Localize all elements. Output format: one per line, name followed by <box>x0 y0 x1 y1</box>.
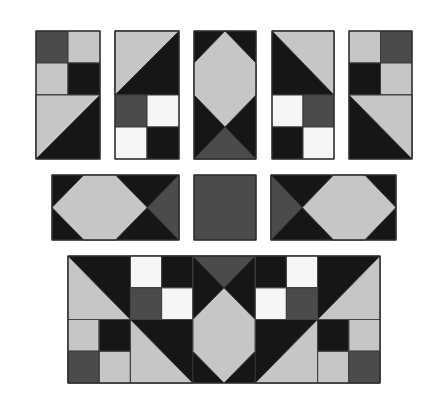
patch-white <box>272 95 303 127</box>
quilt-block-row1-block1 <box>36 31 100 159</box>
patch-black <box>349 63 381 95</box>
patch-white <box>130 256 161 288</box>
patch-light <box>68 31 100 63</box>
patch-black <box>272 127 303 159</box>
patch-light <box>349 31 381 63</box>
quilt-block-row2-right <box>271 175 396 240</box>
patch-dark <box>115 95 147 127</box>
quilt-diagram <box>0 0 436 395</box>
patch-dark <box>349 351 380 383</box>
quilt-block-row3-assembled <box>68 256 380 383</box>
quilt-blocks <box>36 31 412 383</box>
patch-light <box>349 320 380 352</box>
patch-black <box>255 256 286 288</box>
patch-black <box>318 320 349 352</box>
quilt-block-row2-center <box>194 175 256 240</box>
quilt-block-row1-block4 <box>272 31 334 159</box>
quilt-block-row1-block5 <box>349 31 412 159</box>
patch-white <box>255 288 286 320</box>
patch-white <box>147 95 179 127</box>
quilt-block-row2-left <box>52 175 179 240</box>
patch-dark <box>194 175 256 240</box>
patch-light <box>99 351 130 383</box>
patch-white <box>162 288 193 320</box>
patch-light <box>68 320 99 352</box>
patch-white <box>303 127 334 159</box>
patch-black <box>147 127 179 159</box>
patch-white <box>115 127 147 159</box>
patch-light <box>318 351 349 383</box>
patch-dark <box>286 288 317 320</box>
patch-dark <box>36 31 68 63</box>
patch-light <box>381 63 413 95</box>
patch-dark <box>303 95 334 127</box>
patch-black <box>162 256 193 288</box>
patch-dark <box>381 31 413 63</box>
patch-black <box>68 63 100 95</box>
patch-dark <box>130 288 161 320</box>
quilt-block-row1-block2 <box>115 31 179 159</box>
patch-black <box>99 320 130 352</box>
quilt-block-row1-block3 <box>194 31 256 159</box>
patch-light <box>36 63 68 95</box>
patch-white <box>286 256 317 288</box>
patch-dark <box>68 351 99 383</box>
